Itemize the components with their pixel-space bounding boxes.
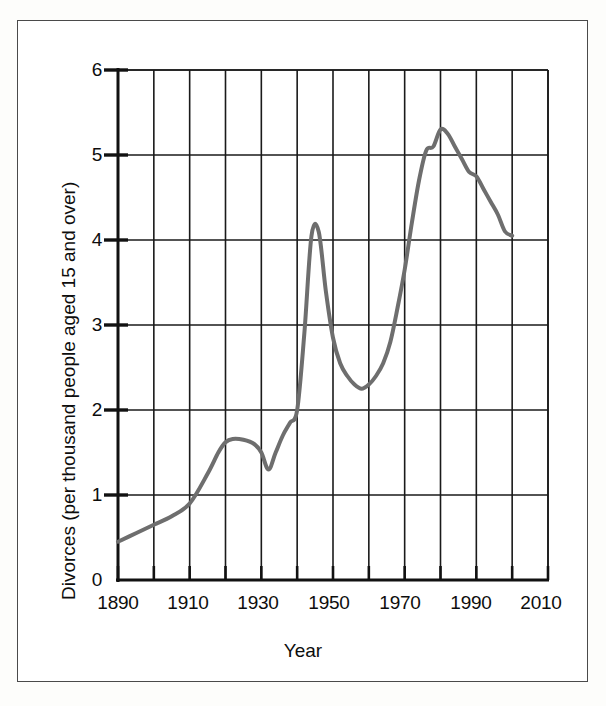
figure-root: 6 5 4 3 2 1 0 1890 1910 1930 1950 1970 1… (0, 0, 606, 706)
y-axis-title: Divorces (per thousand people aged 15 an… (58, 182, 80, 600)
x-tick-label-1990: 1990 (436, 592, 506, 614)
y-tick-label-5: 5 (72, 144, 102, 166)
x-tick-label-1930: 1930 (223, 592, 293, 614)
y-tick-label-6: 6 (72, 59, 102, 81)
x-tick-label-1890: 1890 (83, 592, 153, 614)
x-tick-label-1970: 1970 (365, 592, 435, 614)
x-tick-label-1950: 1950 (294, 592, 364, 614)
x-tick-label-2010: 2010 (506, 592, 576, 614)
x-axis-title: Year (0, 640, 606, 662)
x-tick-label-1910: 1910 (153, 592, 223, 614)
